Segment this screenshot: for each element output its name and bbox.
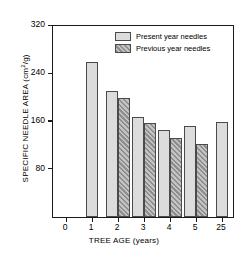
y-axis-label-prefix: SPECIFIC NEEDLE AREA (cm	[21, 68, 30, 183]
bar-present-age-25	[216, 122, 228, 218]
y-axis-label: SPECIFIC NEEDLE AREA (cm2/g)	[20, 23, 31, 213]
x-tick-label-2: 2	[107, 222, 127, 232]
y-axis-label-suffix: /g)	[21, 54, 30, 64]
x-tick-label-0: 0	[55, 222, 75, 232]
y-tick-label-80: 80	[36, 163, 45, 173]
chart-legend: Present year needles Previous year needl…	[115, 32, 210, 56]
y-axis-label-exponent: 2	[20, 64, 26, 68]
bar-present-age-5	[184, 126, 196, 217]
bar-previous-age-5	[196, 144, 208, 217]
bar-present-age-4	[158, 130, 170, 217]
y-tick-240: 240	[48, 73, 53, 74]
y-tick-label-240: 240	[31, 67, 45, 77]
x-tick-label-5: 5	[185, 222, 205, 232]
x-tick-label-25: 25	[211, 222, 231, 232]
bar-previous-age-2	[118, 98, 130, 217]
bar-present-age-2	[106, 91, 118, 217]
legend-swatch-present-icon	[115, 32, 131, 41]
x-tick-label-3: 3	[133, 222, 153, 232]
bar-previous-age-4	[170, 138, 182, 217]
legend-swatch-previous-icon	[115, 44, 131, 53]
plot-area: Present year needles Previous year needl…	[52, 25, 234, 218]
legend-label-present: Present year needles	[136, 32, 207, 41]
y-tick-160: 160	[48, 120, 53, 121]
y-tick-320: 320	[48, 25, 53, 26]
y-tick-label-320: 320	[31, 19, 45, 29]
chart-figure: SPECIFIC NEEDLE AREA (cm2/g) Present yea…	[0, 0, 248, 255]
y-tick-80: 80	[48, 168, 53, 169]
bar-previous-age-3	[144, 123, 156, 217]
bar-present-age-3	[132, 117, 144, 217]
legend-item-present: Present year needles	[115, 32, 210, 41]
x-axis-label: TREE AGE (years)	[0, 236, 248, 245]
x-tick-label-4: 4	[159, 222, 179, 232]
bar-present-age-1	[86, 62, 98, 217]
legend-label-previous: Previous year needles	[136, 44, 210, 53]
y-tick-label-160: 160	[31, 115, 45, 125]
x-tick-label-1: 1	[81, 222, 101, 232]
legend-item-previous: Previous year needles	[115, 44, 210, 53]
